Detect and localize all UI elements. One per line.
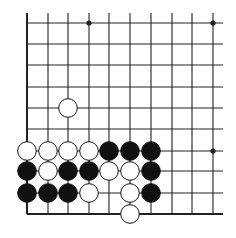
- star-point-icon: [210, 148, 215, 153]
- board-grid: [27, 13, 223, 214]
- black-stone: [100, 142, 119, 161]
- black-stone: [80, 162, 99, 181]
- white-stone: [59, 99, 78, 118]
- black-stone: [142, 162, 161, 181]
- black-stone: [39, 184, 58, 203]
- black-stone: [59, 184, 78, 203]
- white-stone: [100, 162, 119, 181]
- black-stone: [142, 142, 161, 161]
- white-stone: [39, 142, 58, 161]
- white-stone: [59, 142, 78, 161]
- white-stone: [121, 205, 140, 224]
- white-stone: [121, 162, 140, 181]
- black-stone: [59, 162, 78, 181]
- star-point-icon: [86, 20, 91, 25]
- black-stone: [121, 142, 140, 161]
- white-stone: [80, 184, 99, 203]
- star-point-icon: [210, 20, 215, 25]
- black-stone: [18, 184, 37, 203]
- white-stone: [80, 142, 99, 161]
- black-stone: [18, 162, 37, 181]
- white-stone: [39, 162, 58, 181]
- white-stone: [18, 142, 37, 161]
- black-stone: [142, 184, 161, 203]
- go-board: [0, 0, 236, 238]
- white-stone: [121, 184, 140, 203]
